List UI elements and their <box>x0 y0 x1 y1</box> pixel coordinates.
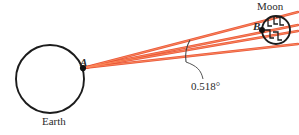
earth-label: Earth <box>42 116 66 127</box>
moon-angular-diameter-figure: Earth Moon A B 0.518° <box>0 0 299 135</box>
point-b-label: B <box>253 21 260 32</box>
angle-leader-line <box>186 62 203 79</box>
point-a-label: A <box>80 57 87 68</box>
earth-circle <box>16 45 84 113</box>
angle-value-label: 0.518° <box>191 81 220 92</box>
ray-to-point-b-core <box>83 31 298 68</box>
moon-label: Moon <box>257 1 283 12</box>
